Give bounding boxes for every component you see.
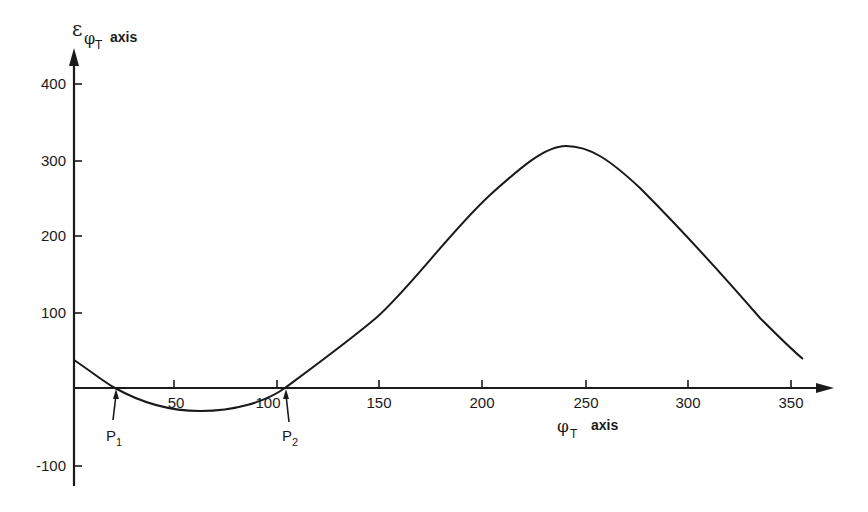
- p2-letter: P: [282, 427, 292, 444]
- p2-subscript: 2: [292, 436, 298, 448]
- y-tick-neg100: -100: [36, 457, 66, 474]
- x-axis-label: φ T axis: [557, 416, 618, 441]
- arrow-up-icon: [283, 389, 289, 399]
- y-axis-word: axis: [110, 29, 137, 45]
- x-tick-150: 150: [366, 394, 391, 411]
- y-tick-100: 100: [41, 304, 66, 321]
- phi-symbol: φ: [557, 416, 569, 436]
- y-axis-arrow-icon: [69, 48, 79, 66]
- t-subscript: T: [95, 38, 103, 52]
- phi-symbol: φ: [84, 29, 95, 48]
- epsilon-curve: [74, 146, 803, 411]
- x-tick-250: 250: [573, 394, 598, 411]
- x-ticks: [174, 380, 791, 388]
- p1-letter: P: [106, 427, 116, 444]
- x-tick-300: 300: [675, 394, 700, 411]
- y-tick-400: 400: [41, 75, 66, 92]
- annotation-p2: P 2: [282, 389, 298, 448]
- x-axis-word: axis: [591, 417, 618, 433]
- x-tick-200: 200: [469, 394, 494, 411]
- annotation-p1: P 1: [106, 389, 122, 448]
- epsilon-symbol: ε: [72, 17, 82, 41]
- x-tick-350: 350: [778, 394, 803, 411]
- chart-canvas: 400 300 200 100 -100 50 100 150 200 250 …: [0, 0, 868, 512]
- y-tick-300: 300: [41, 152, 66, 169]
- y-axis-label: ε φ T axis: [72, 17, 137, 52]
- x-axis-arrow-icon: [816, 383, 834, 393]
- y-tick-200: 200: [41, 227, 66, 244]
- p1-subscript: 1: [116, 436, 122, 448]
- t-subscript: T: [570, 427, 578, 441]
- y-ticks: [74, 84, 82, 466]
